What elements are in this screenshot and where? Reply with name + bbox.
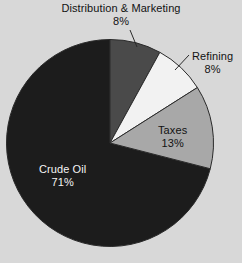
pie-label-crude-oil-name: Crude Oil — [39, 163, 86, 176]
pie-label-taxes-name: Taxes — [158, 124, 187, 137]
pie-label-refining-name: Refining — [192, 50, 233, 63]
pie-label-refining: Refining 8% — [192, 50, 233, 76]
pie-label-refining-value: 8% — [192, 63, 233, 76]
pie-label-distribution-marketing-value: 8% — [61, 15, 180, 28]
pie-label-taxes: Taxes 13% — [158, 124, 187, 150]
pie-label-distribution-marketing: Distribution & Marketing 8% — [61, 2, 180, 28]
pie-chart-svg — [0, 0, 242, 263]
pie-label-taxes-value: 13% — [158, 137, 187, 150]
leader-line-refining — [175, 55, 189, 70]
pie-label-distribution-marketing-name: Distribution & Marketing — [61, 2, 180, 15]
pie-label-crude-oil: Crude Oil 71% — [39, 163, 86, 189]
pie-label-crude-oil-value: 71% — [39, 176, 86, 189]
pie-chart: Distribution & Marketing 8% Refining 8% … — [0, 0, 242, 263]
